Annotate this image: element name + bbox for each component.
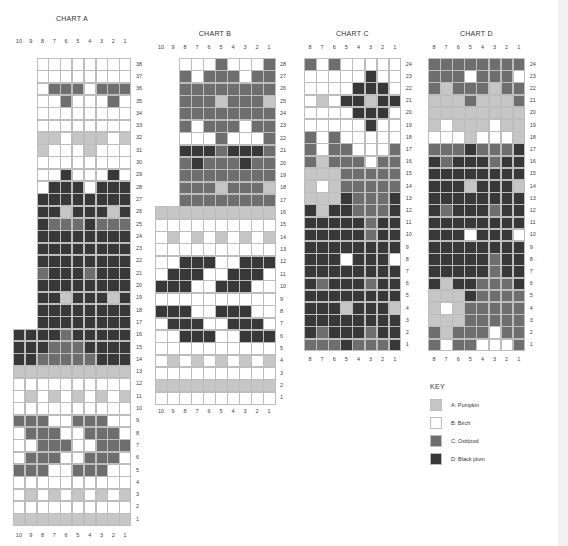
stitch-cell	[328, 156, 341, 169]
stitch-cell	[48, 513, 60, 526]
stitch-cell	[37, 427, 49, 440]
stitch-cell	[203, 243, 216, 256]
stitch-cell	[72, 427, 84, 440]
stitch-cell	[84, 366, 96, 379]
stitch-cell	[304, 70, 317, 83]
stitch-cell	[119, 120, 131, 133]
stitch-cell	[239, 58, 252, 71]
stitch-cell	[263, 194, 276, 207]
stitch-cell	[13, 427, 25, 440]
row-number: 29	[136, 171, 142, 177]
stitch-cell	[389, 265, 402, 278]
stitch-cell	[440, 217, 453, 230]
stitch-cell	[501, 204, 514, 217]
stitch-cell	[48, 230, 60, 243]
stitch-cell	[239, 256, 252, 269]
column-number: 9	[25, 532, 37, 538]
stitch-cell	[37, 230, 49, 243]
row-number: 20	[530, 109, 536, 115]
stitch-cell	[365, 265, 378, 278]
key-label: C: Oxblood	[451, 438, 479, 444]
stitch-cell	[215, 355, 228, 368]
column-number: 1	[263, 44, 275, 50]
stitch-cell	[191, 379, 204, 392]
stitch-cell	[107, 329, 119, 342]
stitch-cell	[489, 241, 502, 254]
column-number: 10	[155, 44, 167, 50]
stitch-cell	[215, 145, 228, 158]
stitch-cell	[25, 353, 37, 366]
stitch-cell	[239, 169, 252, 182]
stitch-cell	[48, 304, 60, 317]
key-label: B: Birch	[451, 420, 470, 426]
stitch-cell	[428, 339, 441, 352]
stitch-cell	[428, 278, 441, 291]
column-number: 5	[464, 44, 476, 50]
stitch-cell	[107, 402, 119, 415]
row-number: 31	[136, 147, 142, 153]
stitch-cell	[464, 95, 477, 108]
row-number: 22	[530, 85, 536, 91]
stitch-cell	[316, 156, 329, 169]
row-number: 35	[136, 98, 142, 104]
stitch-cell	[72, 353, 84, 366]
stitch-cell	[107, 476, 119, 489]
row-number: 3	[280, 370, 283, 376]
stitch-cell	[203, 355, 216, 368]
stitch-cell	[513, 326, 526, 339]
column-number: 4	[84, 38, 96, 44]
stitch-cell	[60, 378, 72, 391]
stitch-cell	[96, 378, 108, 391]
stitch-cell	[452, 314, 465, 327]
row-number: 19	[530, 122, 536, 128]
stitch-cell	[25, 329, 37, 342]
stitch-cell	[37, 132, 49, 145]
stitch-cell	[328, 58, 341, 71]
row-number: 3	[530, 317, 533, 323]
row-number: 6	[530, 280, 533, 286]
stitch-cell	[107, 243, 119, 256]
stitch-cell	[227, 243, 240, 256]
row-number: 22	[406, 85, 412, 91]
stitch-cell	[251, 231, 264, 244]
stitch-cell	[452, 107, 465, 120]
stitch-cell	[377, 253, 390, 266]
stitch-cell	[340, 278, 353, 291]
row-number: 2	[406, 329, 409, 335]
stitch-cell	[107, 292, 119, 305]
stitch-cell	[72, 193, 84, 206]
stitch-cell	[203, 231, 216, 244]
stitch-cell	[227, 367, 240, 380]
stitch-cell	[167, 293, 180, 306]
stitch-cell	[96, 476, 108, 489]
column-number: 6	[60, 532, 72, 538]
stitch-cell	[84, 390, 96, 403]
stitch-cell	[107, 255, 119, 268]
column-number: 4	[476, 44, 488, 50]
stitch-cell	[263, 206, 276, 219]
stitch-cell	[72, 243, 84, 256]
stitch-cell	[476, 217, 489, 230]
stitch-cell	[72, 439, 84, 452]
row-number: 13	[136, 368, 142, 374]
stitch-cell	[452, 180, 465, 193]
stitch-cell	[263, 280, 276, 293]
stitch-cell	[263, 305, 276, 318]
stitch-cell	[13, 329, 25, 342]
stitch-cell	[452, 326, 465, 339]
stitch-cell	[37, 341, 49, 354]
stitch-cell	[107, 58, 119, 71]
stitch-cell	[119, 144, 131, 157]
stitch-cell	[60, 501, 72, 514]
stitch-cell	[304, 192, 317, 205]
stitch-cell	[513, 253, 526, 266]
column-number: 5	[215, 44, 227, 50]
stitch-cell	[239, 206, 252, 219]
stitch-cell	[203, 83, 216, 96]
stitch-cell	[155, 305, 168, 318]
stitch-cell	[37, 156, 49, 169]
column-number: 4	[227, 44, 239, 50]
row-number: 6	[136, 454, 139, 460]
stitch-cell	[191, 169, 204, 182]
stitch-cell	[263, 157, 276, 170]
